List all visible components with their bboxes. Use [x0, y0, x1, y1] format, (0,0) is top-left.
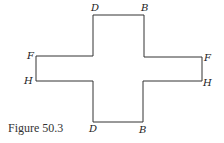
cross-shape-outline: [36, 15, 202, 122]
label-top-d: D: [90, 2, 99, 13]
cross-figure: D B F H F H D B Figure 50.3: [0, 0, 224, 143]
label-right-h: H: [202, 77, 212, 88]
label-top-b: B: [140, 2, 148, 13]
label-bottom-b: B: [138, 124, 146, 135]
label-right-f: F: [203, 52, 212, 63]
label-bottom-d: D: [88, 123, 97, 134]
label-left-h: H: [23, 75, 33, 86]
label-left-f: F: [26, 50, 35, 61]
figure-caption: Figure 50.3: [8, 121, 63, 135]
